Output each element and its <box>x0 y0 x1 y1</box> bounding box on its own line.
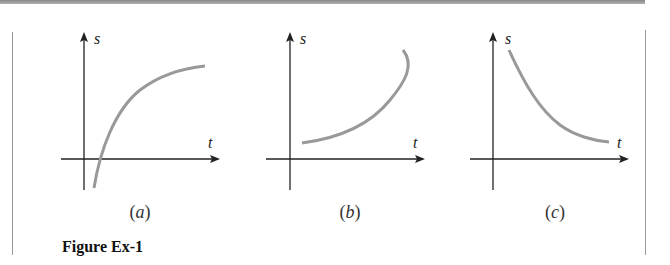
panel-a-label: (a) <box>110 202 170 223</box>
t-label-a: t <box>208 134 213 151</box>
figure-caption: Figure Ex-1 <box>62 238 143 256</box>
panel-c-label: (c) <box>525 202 585 223</box>
panel-c-graph: s t <box>470 30 627 190</box>
curve-b <box>302 50 408 143</box>
s-label-a: s <box>94 30 100 47</box>
curve-c <box>509 50 609 142</box>
panel-b-graph: s t <box>266 30 423 190</box>
panel-b-label: (b) <box>320 202 380 223</box>
panel-a-graph: s t <box>61 30 218 190</box>
t-label-b: t <box>413 134 418 151</box>
figure-graphs: s t s t s t <box>0 0 670 265</box>
t-label-c: t <box>617 134 622 151</box>
s-label-c: s <box>505 30 511 47</box>
s-label-b: s <box>300 30 306 47</box>
curve-a <box>94 66 205 188</box>
